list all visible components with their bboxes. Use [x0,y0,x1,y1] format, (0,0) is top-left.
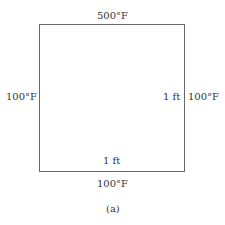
left-temperature-label: 100°F [6,91,37,103]
right-temperature-label: 100°F [188,91,219,103]
top-temperature-label: 500°F [97,10,128,22]
bottom-temperature-label: 100°F [97,178,128,190]
width-dimension-label: 1 ft [103,155,120,167]
figure-caption: (a) [106,203,120,215]
height-dimension-label: 1 ft [163,91,180,103]
